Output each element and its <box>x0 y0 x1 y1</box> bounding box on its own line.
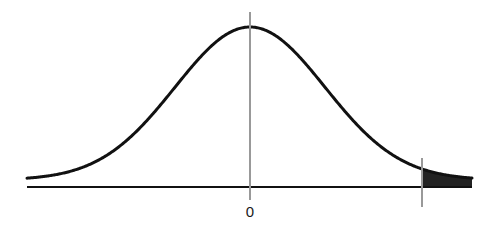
mean-zero-label: 0 <box>246 204 254 219</box>
normal-distribution-diagram <box>0 0 496 227</box>
